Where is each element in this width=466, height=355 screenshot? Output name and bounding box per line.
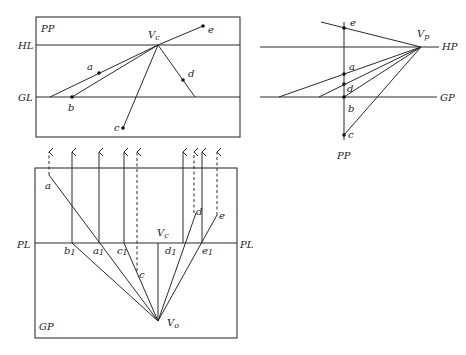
trace-b1-label: b1 <box>64 245 76 257</box>
picture-line-label-right: PL <box>239 239 254 250</box>
ray-e <box>321 22 421 47</box>
point-c-label: c <box>348 129 354 140</box>
picture-plane-label: PP <box>336 150 351 161</box>
line-c <box>123 45 158 128</box>
line-a <box>50 45 158 97</box>
ground-plane-label: GP <box>440 92 455 103</box>
point-e <box>342 26 346 30</box>
point-a <box>342 72 346 76</box>
point-d <box>181 78 185 82</box>
line-e <box>158 26 203 45</box>
point-c <box>342 133 346 137</box>
point-e-label: e <box>208 24 214 35</box>
point-d <box>342 82 346 86</box>
perspective-diagram: PP HL GL Vc a b c d e HP GP PP <box>0 0 466 355</box>
picture-plane-label: PP <box>40 23 55 34</box>
point-e <box>201 24 205 28</box>
point-a-label: a <box>87 61 93 72</box>
line-b <box>72 45 158 97</box>
trace-d1-label: d1 <box>165 245 177 257</box>
ray-b <box>72 243 158 321</box>
side-view: HP GP PP Vp e a d b c <box>260 17 458 161</box>
ray-b <box>344 47 421 97</box>
point-d-label: d <box>196 206 202 217</box>
picture-line-label-left: PL <box>16 239 31 250</box>
point-c-label: c <box>114 122 120 133</box>
ray-d <box>319 47 421 97</box>
point-b-label: b <box>348 103 354 114</box>
horizon-plane-label: HP <box>441 41 458 52</box>
point-a <box>97 71 101 75</box>
point-d-label: d <box>347 83 353 94</box>
trace-e1-label: e1 <box>202 245 213 257</box>
vanishing-point-label: Vp <box>417 28 429 41</box>
vanishing-point-label: Vc <box>148 29 160 42</box>
point-e-label: e <box>219 210 225 221</box>
point-e-label: e <box>350 17 356 28</box>
point-d-label: d <box>188 68 194 79</box>
point-c-label: c <box>139 269 145 280</box>
perspective-view: PP HL GL Vc a b c d e <box>17 17 240 137</box>
plan-view: GP PL PL Vc Vo a d e c b1 a1 c1 d <box>16 152 254 338</box>
ground-plane-label: GP <box>39 321 54 332</box>
station-point-label: Vo <box>167 317 179 330</box>
ground-line-label: GL <box>18 92 33 103</box>
picture-plane-frame <box>36 17 240 137</box>
center-vision-label: Vc <box>157 227 169 240</box>
point-c <box>121 126 125 130</box>
point-b-label: b <box>68 102 74 113</box>
point-a-label: a <box>45 180 51 191</box>
horizon-line-label: HL <box>17 40 34 51</box>
point-b <box>70 95 74 99</box>
point-b <box>342 95 346 99</box>
point-a-label: a <box>349 61 355 72</box>
